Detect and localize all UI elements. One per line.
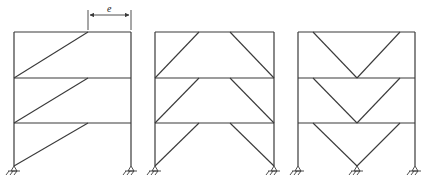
braced-frames-diagram: e (0, 0, 426, 182)
pin-support-icon (6, 166, 20, 175)
frame-eccentric-single-diagonal: e (14, 3, 131, 166)
pin-support-icon (266, 166, 280, 175)
dimension-label: e (107, 3, 112, 14)
pin-support-icon (349, 166, 363, 175)
pin-supports (6, 166, 421, 175)
pin-support-icon (147, 166, 161, 175)
pin-support-icon (123, 166, 137, 175)
frame-eccentric-split-k (155, 32, 274, 166)
pin-support-icon (290, 166, 304, 175)
dimension-e: e (88, 3, 131, 30)
pin-support-icon (407, 166, 421, 175)
frame-v-bracing (298, 32, 415, 166)
